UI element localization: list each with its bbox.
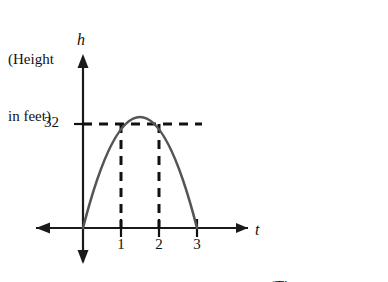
y-tick-label-32: 32 [44, 113, 59, 132]
x-tick-label-1: 1 [114, 236, 128, 253]
x-axis-right-arrowhead [236, 223, 248, 233]
y-axis-caption: (Height in feet) [8, 12, 54, 164]
x-axis-left-arrowhead [36, 223, 50, 234]
x-tick-label-2: 2 [152, 236, 166, 253]
y-axis-variable-label: h [77, 30, 85, 49]
y-axis-top-arrowhead [78, 54, 89, 68]
x-axis-variable-label: t [255, 220, 259, 239]
x-axis-caption: (Time in seconds) [270, 239, 338, 282]
parabola-curve [83, 117, 197, 228]
x-tick-label-3: 3 [190, 236, 204, 253]
height-vs-time-graph-figure: (Height in feet) h t (Time in seconds) 3… [0, 0, 388, 282]
y-axis-bottom-arrowhead [78, 250, 89, 264]
x-axis-caption-line1: (Time [270, 277, 338, 282]
y-axis-caption-line1: (Height [8, 50, 54, 69]
